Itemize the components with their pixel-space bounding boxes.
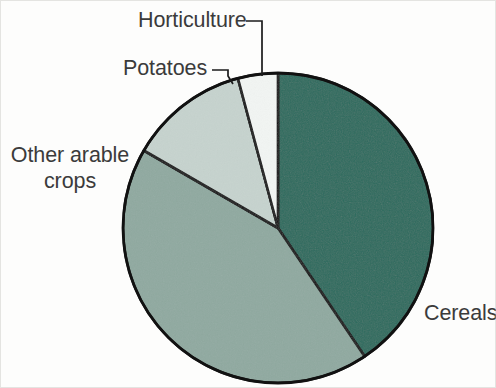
pie-slices-group: [123, 73, 433, 383]
pie-label-other-arable-crops: Other arablecrops: [4, 142, 136, 194]
pie-label-other-arable-crops-line1: Other arable: [11, 143, 129, 167]
pie-label-other-arable-crops-line2: crops: [4, 168, 136, 194]
pie-label-horticulture: Horticulture: [138, 7, 247, 33]
pie-label-potatoes: Potatoes: [123, 55, 207, 81]
leader-line-horticulture: [246, 21, 262, 76]
pie-chart-figure: Horticulture Potatoes Other arablecrops …: [0, 0, 496, 388]
pie-chart-svg: [0, 0, 496, 388]
pie-label-cereals: Cereals: [424, 300, 496, 326]
